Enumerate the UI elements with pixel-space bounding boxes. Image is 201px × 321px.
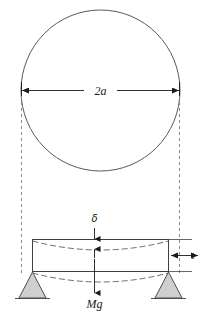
diagram-canvas: 2a δ Mg t <box>0 0 201 321</box>
deflection-label-delta: δ <box>91 213 97 224</box>
deflected-top-curve <box>33 241 169 250</box>
beam-body <box>32 240 169 272</box>
left-support-triangle <box>19 272 46 298</box>
deflected-bottom-curve <box>33 273 169 282</box>
diameter-dimension-2a: 2a <box>22 82 180 99</box>
load-label-mg: Mg <box>86 297 103 311</box>
diameter-label-2a: 2a <box>95 84 107 98</box>
right-triangle-support <box>151 272 186 299</box>
thickness-label-t: t <box>191 249 195 261</box>
weight-load-arrow-Mg: Mg <box>86 259 103 311</box>
thickness-dimension-t: t <box>169 240 199 272</box>
deflection-dimension-delta: δ <box>91 213 97 258</box>
physics-diagram-figure: 2a δ Mg t <box>0 0 201 321</box>
right-support-triangle <box>155 272 182 298</box>
